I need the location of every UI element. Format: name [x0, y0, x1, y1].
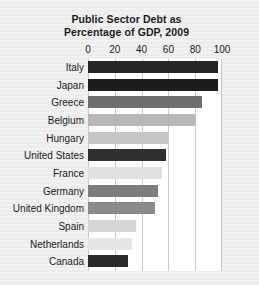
category-label-greece: Greece: [0, 97, 84, 108]
bar-netherlands: [88, 238, 132, 250]
bar-japan: [88, 79, 218, 91]
category-label-belgium: Belgium: [0, 115, 84, 126]
category-label-germany: Germany: [0, 186, 84, 197]
bar-united-kingdom: [88, 202, 155, 214]
x-tick-label-60: 60: [163, 44, 174, 56]
bar-row: [88, 77, 222, 95]
x-tick-label-0: 0: [85, 44, 91, 56]
category-label-japan: Japan: [0, 80, 84, 91]
bar-row: [88, 183, 222, 201]
bar-series: [88, 59, 222, 271]
category-label-italy: Italy: [0, 62, 84, 73]
bar-spain: [88, 220, 136, 232]
bar-italy: [88, 61, 218, 73]
bar-canada: [88, 255, 128, 267]
x-tick-label-20: 20: [109, 44, 120, 56]
bar-hungary: [88, 132, 168, 144]
chart-title-line-2: Percentage of GDP, 2009: [0, 26, 253, 39]
bar-greece: [88, 96, 202, 108]
category-label-united-kingdom: United Kingdom: [0, 203, 84, 214]
bar-france: [88, 167, 162, 179]
bar-row: [88, 253, 222, 271]
chart-title: Public Sector Debt as Percentage of GDP,…: [0, 13, 253, 39]
category-label-netherlands: Netherlands: [0, 239, 84, 250]
bar-row: [88, 218, 222, 236]
bar-belgium: [88, 114, 195, 126]
bar-row: [88, 236, 222, 254]
chart-title-line-1: Public Sector Debt as: [0, 13, 253, 26]
x-tick-label-100: 100: [214, 44, 231, 56]
bar-united-states: [88, 149, 166, 161]
bar-row: [88, 112, 222, 130]
bar-row: [88, 147, 222, 165]
chart-page: Public Sector Debt as Percentage of GDP,…: [0, 0, 259, 285]
bar-germany: [88, 185, 158, 197]
bar-row: [88, 165, 222, 183]
category-label-united-states: United States: [0, 150, 84, 161]
plot-area: [88, 59, 222, 271]
x-tick-label-80: 80: [190, 44, 201, 56]
bar-row: [88, 94, 222, 112]
bar-row: [88, 59, 222, 77]
category-label-france: France: [0, 168, 84, 179]
x-axis-tick-labels: 020406080100: [0, 44, 259, 57]
bar-row: [88, 130, 222, 148]
bar-row: [88, 200, 222, 218]
y-axis-category-labels: ItalyJapanGreeceBelgiumHungaryUnited Sta…: [0, 59, 84, 271]
category-label-hungary: Hungary: [0, 133, 84, 144]
category-label-canada: Canada: [0, 256, 84, 267]
x-tick-label-40: 40: [136, 44, 147, 56]
category-label-spain: Spain: [0, 221, 84, 232]
